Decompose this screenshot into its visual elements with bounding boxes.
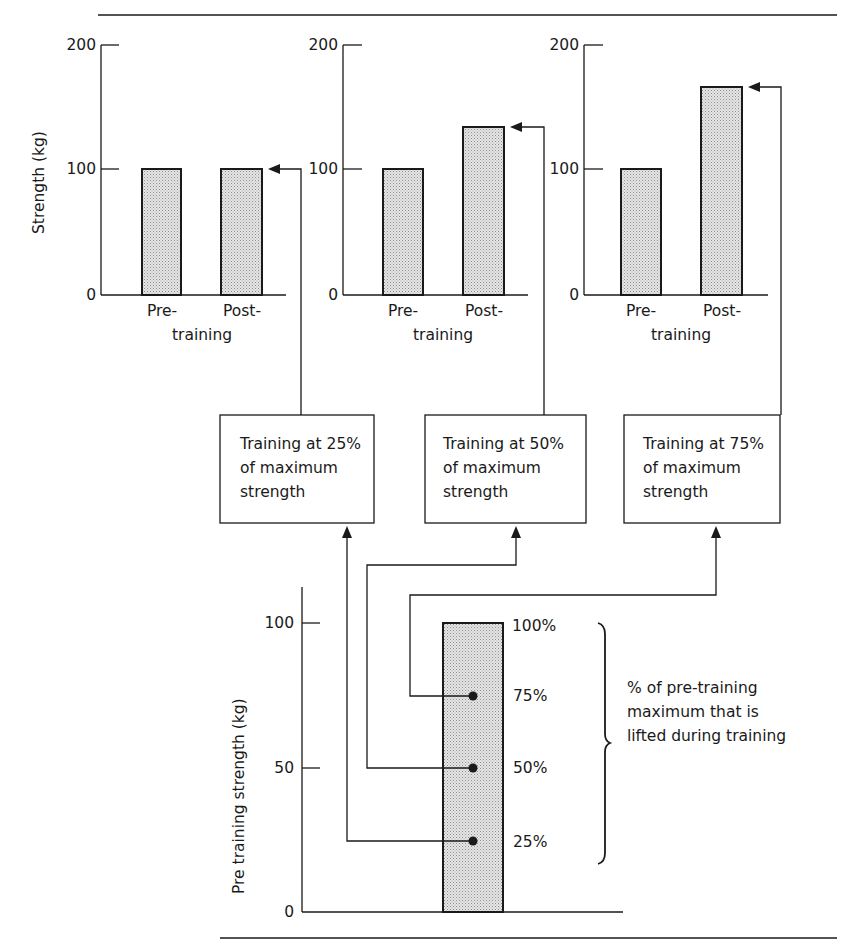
- box-25-text: Training at 25% of maximum strength: [240, 432, 361, 504]
- chart-3-group-label: training: [651, 328, 711, 344]
- chart-2-pre-bar: [383, 169, 423, 295]
- bottom-chart-ylabel: Pre training strength (kg): [230, 698, 248, 894]
- chart-3-pre-bar: [621, 169, 661, 295]
- arrowhead-icon: [748, 82, 760, 92]
- marker-75-dot: [469, 692, 478, 701]
- level-100-label: 100%: [512, 619, 556, 635]
- box-75-text: Training at 75% of maximum strength: [643, 432, 764, 504]
- chart-1-cat-pre: Pre-: [132, 304, 192, 320]
- chart-3-post-bar: [701, 87, 742, 295]
- arrowhead-icon: [711, 526, 721, 538]
- bottom-tick-100: 100: [254, 616, 294, 632]
- chart-2-cat-pre: Pre-: [373, 304, 433, 320]
- arrowhead-icon: [511, 526, 521, 538]
- level-50-label: 50%: [513, 761, 547, 777]
- marker-50-dot: [469, 764, 478, 773]
- box-75-line1: Training at 75%: [643, 432, 764, 456]
- box-25-line2: of maximum: [240, 456, 361, 480]
- chart-1-cat-post: Post-: [212, 304, 272, 320]
- chart-1-tick-200: 200: [56, 38, 96, 54]
- chart-2-group-label: training: [413, 328, 473, 344]
- level-75-label: 75%: [513, 689, 547, 705]
- chart-3-tick-100: 100: [539, 162, 579, 178]
- chart-1-ylabel: Strength (kg): [30, 131, 48, 234]
- note-line1: % of pre-training: [627, 676, 786, 700]
- brace-annotation: % of pre-training maximum that is lifted…: [627, 676, 786, 748]
- box-50-text: Training at 50% of maximum strength: [443, 432, 564, 504]
- arrowhead-icon: [268, 164, 280, 174]
- level-25-label: 25%: [513, 835, 547, 851]
- arrowhead-icon: [342, 526, 352, 538]
- box-25-line1: Training at 25%: [240, 432, 361, 456]
- chart-1-tick-0: 0: [56, 288, 96, 304]
- chart-1-group-label: training: [172, 328, 232, 344]
- marker-25-dot: [469, 837, 478, 846]
- bottom-tick-50: 50: [254, 761, 294, 777]
- box-75-line2: of maximum: [643, 456, 764, 480]
- chart-1-post-bar: [221, 169, 262, 295]
- chart-2-tick-0: 0: [298, 288, 338, 304]
- chart-1-tick-100: 100: [56, 162, 96, 178]
- chart-2-cat-post: Post-: [454, 304, 514, 320]
- box-25-line3: strength: [240, 480, 361, 504]
- chart-1-pre-bar: [142, 169, 181, 295]
- box-75-line3: strength: [643, 480, 764, 504]
- arrowhead-icon: [510, 122, 522, 132]
- chart-3-tick-200: 200: [539, 38, 579, 54]
- chart-2-tick-200: 200: [298, 38, 338, 54]
- connector-box3-to-chart3: [756, 87, 781, 415]
- note-line3: lifted during training: [627, 724, 786, 748]
- chart-2-post-bar: [463, 127, 504, 295]
- curly-brace-icon: [598, 623, 610, 864]
- box-50-line1: Training at 50%: [443, 432, 564, 456]
- bottom-tick-0: 0: [254, 905, 294, 921]
- box-50-line2: of maximum: [443, 456, 564, 480]
- chart-2-tick-100: 100: [298, 162, 338, 178]
- note-line2: maximum that is: [627, 700, 786, 724]
- chart-3-cat-post: Post-: [692, 304, 752, 320]
- chart-3-tick-0: 0: [539, 288, 579, 304]
- chart-3-cat-pre: Pre-: [611, 304, 671, 320]
- box-50-line3: strength: [443, 480, 564, 504]
